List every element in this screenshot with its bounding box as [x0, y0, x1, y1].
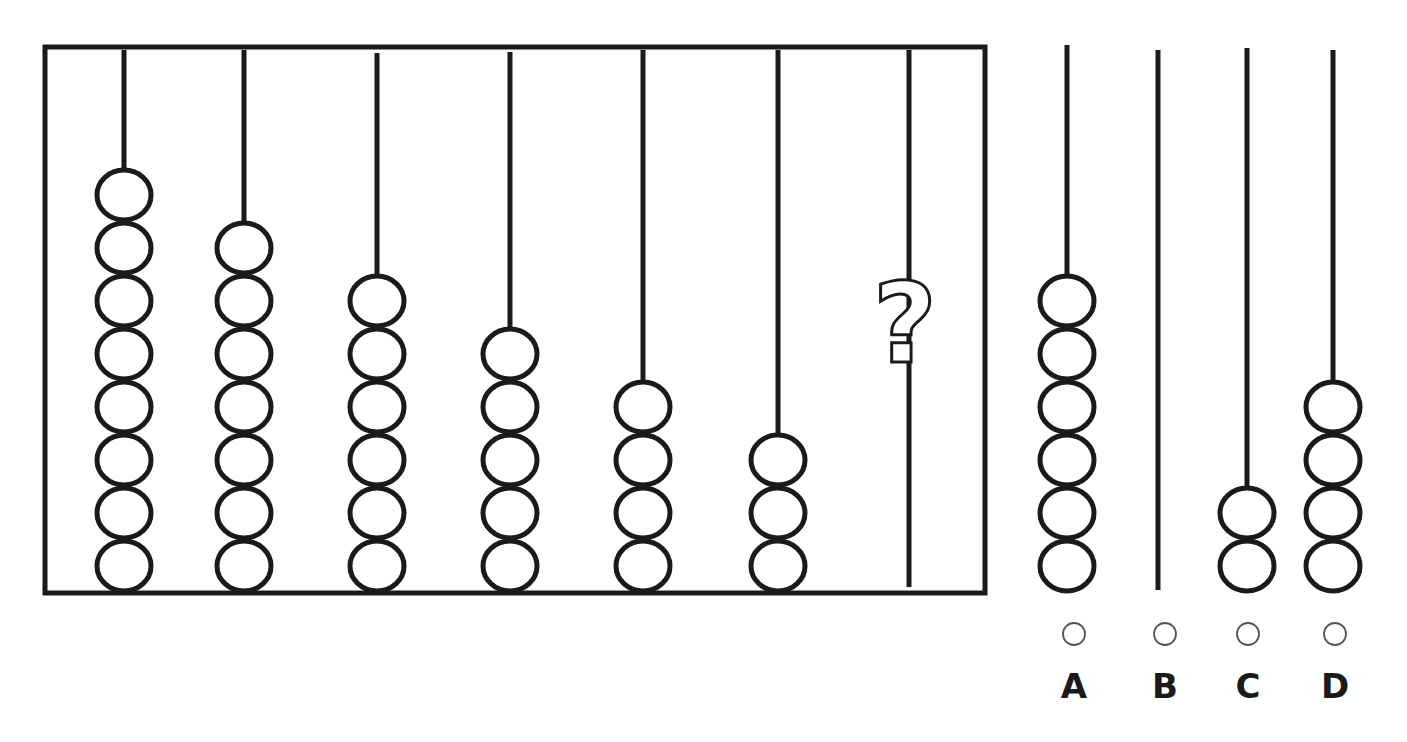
bead	[751, 435, 805, 485]
rod-2	[217, 50, 271, 591]
answer-options: ABCD	[1040, 45, 1360, 706]
bead	[217, 276, 271, 326]
bead	[217, 223, 271, 273]
bead	[483, 329, 537, 379]
bead	[350, 435, 404, 485]
radio-option-c[interactable]	[1237, 623, 1259, 645]
bead	[97, 276, 151, 326]
option-c: C	[1220, 48, 1274, 706]
bead	[483, 435, 537, 485]
bead	[1040, 435, 1094, 485]
bead	[751, 488, 805, 538]
bead	[616, 435, 670, 485]
bead	[483, 541, 537, 591]
bead	[217, 435, 271, 485]
bead	[217, 382, 271, 432]
option-label-a: A	[1061, 666, 1088, 706]
bead	[1040, 329, 1094, 379]
rod-3	[350, 53, 404, 591]
bead	[1040, 488, 1094, 538]
bead	[217, 488, 271, 538]
option-label-c: C	[1236, 666, 1261, 706]
bead	[1306, 382, 1360, 432]
bead	[97, 541, 151, 591]
bead	[97, 488, 151, 538]
bead	[350, 541, 404, 591]
question-mark-glyph: ?	[873, 260, 937, 388]
option-a: A	[1040, 45, 1094, 706]
bead	[217, 329, 271, 379]
option-b: B	[1152, 50, 1178, 706]
bead	[97, 223, 151, 273]
bead	[350, 276, 404, 326]
bead	[1306, 488, 1360, 538]
bead	[350, 329, 404, 379]
option-label-b: B	[1152, 666, 1178, 706]
bead	[483, 382, 537, 432]
bead	[616, 382, 670, 432]
rod-6	[751, 50, 805, 591]
option-rod-a	[1040, 45, 1094, 591]
question-mark: ?	[873, 260, 937, 388]
option-label-d: D	[1321, 666, 1349, 706]
bead	[1306, 435, 1360, 485]
bead	[97, 170, 151, 220]
bead	[350, 382, 404, 432]
bead	[1220, 541, 1274, 591]
abacus-puzzle: ? ABCD	[0, 0, 1407, 742]
bead	[97, 329, 151, 379]
bead	[751, 541, 805, 591]
bead	[97, 435, 151, 485]
abacus-rods	[97, 50, 909, 591]
rod-4	[483, 52, 537, 591]
bead	[616, 541, 670, 591]
radio-option-b[interactable]	[1154, 623, 1176, 645]
option-rod-d	[1306, 50, 1360, 591]
bead	[1040, 276, 1094, 326]
option-d: D	[1306, 50, 1360, 706]
bead	[1220, 488, 1274, 538]
bead	[1040, 382, 1094, 432]
bead	[350, 488, 404, 538]
bead	[217, 541, 271, 591]
option-rod-c	[1220, 48, 1274, 591]
rod-5	[616, 50, 670, 591]
bead	[1040, 541, 1094, 591]
bead	[1306, 541, 1360, 591]
rod-1	[97, 50, 151, 591]
bead	[483, 488, 537, 538]
bead	[97, 382, 151, 432]
radio-option-d[interactable]	[1324, 623, 1346, 645]
radio-option-a[interactable]	[1063, 623, 1085, 645]
bead	[616, 488, 670, 538]
